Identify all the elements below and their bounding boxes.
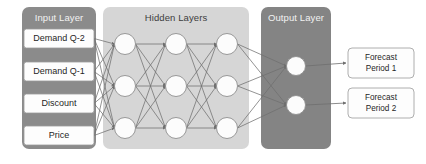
- hidden-layer-title: Hidden Layers: [145, 12, 208, 23]
- forecast-2-line1: Forecast: [365, 93, 398, 102]
- hidden-column-2: [166, 34, 187, 139]
- network-canvas: Input Layer Hidden Layers Output Layer: [0, 0, 426, 164]
- input-label-discount: Discount: [41, 98, 77, 108]
- output-node-2[interactable]: [287, 96, 306, 115]
- neural-network-diagram: Input Layer Hidden Layers Output Layer: [0, 0, 426, 164]
- output-node-1[interactable]: [287, 57, 306, 76]
- forecast-box-period-2[interactable]: Forecast Period 2: [348, 88, 414, 118]
- hidden-node-2-3[interactable]: [166, 118, 187, 139]
- input-layer-title: Input Layer: [35, 12, 84, 23]
- hidden-node-3-3[interactable]: [217, 118, 238, 139]
- forecast-box-period-1[interactable]: Forecast Period 1: [348, 48, 414, 78]
- input-label-demand-q2: Demand Q-2: [33, 33, 85, 43]
- input-label-demand-q1: Demand Q-1: [33, 66, 85, 76]
- output-layer-title: Output Layer: [268, 12, 324, 23]
- hidden-column-1: [115, 34, 136, 139]
- hidden-node-1-1[interactable]: [115, 34, 136, 55]
- hidden-node-2-2[interactable]: [166, 76, 187, 97]
- input-node-discount[interactable]: Discount: [24, 94, 94, 113]
- hidden-node-1-2[interactable]: [115, 76, 136, 97]
- output-layer-panel: Output Layer: [261, 7, 331, 149]
- hidden-node-3-2[interactable]: [217, 76, 238, 97]
- input-node-price[interactable]: Price: [24, 126, 94, 145]
- forecast-1-line1: Forecast: [365, 53, 398, 62]
- input-node-demand-q2[interactable]: Demand Q-2: [24, 29, 94, 48]
- input-node-demand-q1[interactable]: Demand Q-1: [24, 62, 94, 81]
- hidden-node-3-1[interactable]: [217, 34, 238, 55]
- hidden-node-2-1[interactable]: [166, 34, 187, 55]
- hidden-column-3: [217, 34, 238, 139]
- forecast-2-line2: Period 2: [366, 104, 397, 113]
- hidden-node-1-3[interactable]: [115, 118, 136, 139]
- forecast-1-line2: Period 1: [366, 64, 397, 73]
- input-label-price: Price: [49, 130, 70, 140]
